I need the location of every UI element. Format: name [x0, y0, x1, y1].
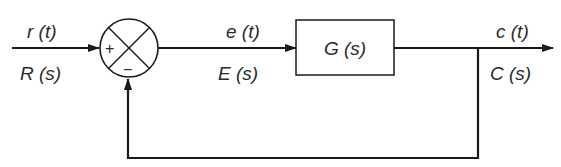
- block-diagram: r (t) R (s) + − e (t) E (s) G (s) c (t) …: [0, 0, 561, 167]
- error-time-label: e (t): [226, 21, 260, 42]
- output-time-label: c (t): [496, 21, 529, 42]
- minus-sign: −: [123, 61, 132, 78]
- plus-sign: +: [105, 40, 114, 57]
- input-time-label: r (t): [27, 21, 57, 42]
- summing-junction: + −: [100, 19, 158, 78]
- output-laplace-label: C (s): [490, 63, 531, 84]
- error-laplace-label: E (s): [218, 63, 258, 84]
- plant-label: G (s): [324, 38, 366, 59]
- input-laplace-label: R (s): [20, 63, 61, 84]
- plant-block: G (s): [296, 20, 394, 75]
